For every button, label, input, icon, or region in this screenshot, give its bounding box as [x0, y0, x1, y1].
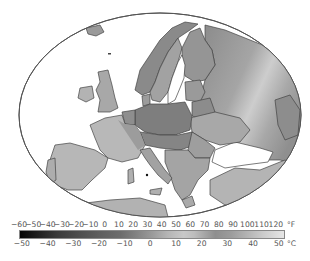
region-faroe — [108, 53, 111, 55]
celsius-tick: 50 — [274, 239, 284, 249]
europe-map — [0, 0, 310, 225]
celsius-unit: °C — [287, 239, 296, 249]
celsius-tick: −50 — [14, 239, 30, 249]
fahrenheit-tick: 120 — [269, 220, 284, 230]
fahrenheit-tick: 20 — [128, 220, 138, 230]
fahrenheit-tick: 60 — [185, 220, 195, 230]
fahrenheit-tick: 50 — [171, 220, 181, 230]
celsius-tick: 0 — [148, 239, 153, 249]
celsius-tick: 20 — [197, 239, 207, 249]
fahrenheit-tick: 30 — [143, 220, 153, 230]
fahrenheit-tick: 70 — [200, 220, 210, 230]
temperature-color-bar — [19, 230, 285, 239]
celsius-tick: −30 — [65, 239, 81, 249]
fahrenheit-tick: 110 — [254, 220, 269, 230]
fahrenheit-tick: −10 — [82, 220, 98, 230]
temperature-legend: −60−50−40−30−20−100102030405060708090100… — [0, 220, 310, 260]
fahrenheit-tick: 90 — [228, 220, 238, 230]
fahrenheit-tick: 40 — [157, 220, 167, 230]
fahrenheit-tick: 100 — [240, 220, 255, 230]
celsius-tick: 40 — [248, 239, 258, 249]
fahrenheit-tick: 80 — [214, 220, 224, 230]
fahrenheit-tick: 0 — [102, 220, 107, 230]
rome-marker — [146, 174, 148, 176]
celsius-tick: −40 — [40, 239, 56, 249]
celsius-scale: −50−40−30−20−1001020304050 — [0, 239, 310, 249]
region-sardinia — [128, 168, 134, 184]
celsius-tick: −20 — [91, 239, 107, 249]
fahrenheit-unit: °F — [287, 220, 295, 230]
celsius-tick: 30 — [223, 239, 233, 249]
fahrenheit-scale: −60−50−40−30−20−100102030405060708090100… — [0, 220, 310, 230]
fahrenheit-tick: 10 — [114, 220, 124, 230]
region-central-europe — [135, 102, 192, 135]
celsius-tick: 10 — [171, 239, 181, 249]
celsius-tick: −10 — [117, 239, 133, 249]
